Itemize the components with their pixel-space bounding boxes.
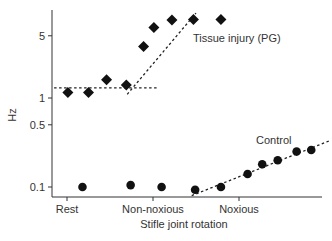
annotation-tissue-injury: Tissue injury (PG): [193, 32, 281, 44]
diamond-point: [138, 41, 149, 52]
circle-point: [157, 183, 166, 192]
scatter-plot: 510.50.1RestNon-noxiousNoxious Hz Stifle…: [0, 0, 332, 241]
y-tick-label: 0.1: [30, 181, 45, 193]
x-tick-label: Rest: [56, 203, 79, 215]
circle-point: [273, 156, 282, 165]
circle-point: [126, 181, 135, 190]
diamond-point: [62, 87, 73, 98]
circle-point: [258, 160, 267, 169]
circle-point: [217, 183, 226, 192]
diamond-point: [215, 14, 226, 25]
y-tick-label: 0.5: [30, 119, 45, 131]
diamond-point: [101, 74, 112, 85]
fit-line: [127, 13, 196, 94]
diamond-point: [148, 22, 159, 33]
fit-lines: [54, 13, 329, 196]
y-axis-label: Hz: [6, 108, 18, 121]
diamond-point: [166, 15, 177, 26]
circle-point: [292, 147, 301, 156]
chart: 510.50.1RestNon-noxiousNoxious Hz Stifle…: [0, 0, 332, 241]
diamond-point: [83, 87, 94, 98]
circle-point: [191, 186, 200, 195]
circle-point: [307, 146, 316, 155]
circle-point: [243, 170, 252, 179]
x-axis-label: Stifle joint rotation: [140, 218, 227, 230]
y-tick-label: 1: [39, 92, 45, 104]
x-tick-label: Noxious: [219, 203, 259, 215]
y-tick-label: 5: [39, 30, 45, 42]
x-tick-label: Non-noxious: [122, 203, 184, 215]
diamond-point: [121, 79, 132, 90]
diamond-point: [188, 14, 199, 25]
circle-point: [78, 183, 87, 192]
annotation-control: Control: [256, 134, 291, 146]
